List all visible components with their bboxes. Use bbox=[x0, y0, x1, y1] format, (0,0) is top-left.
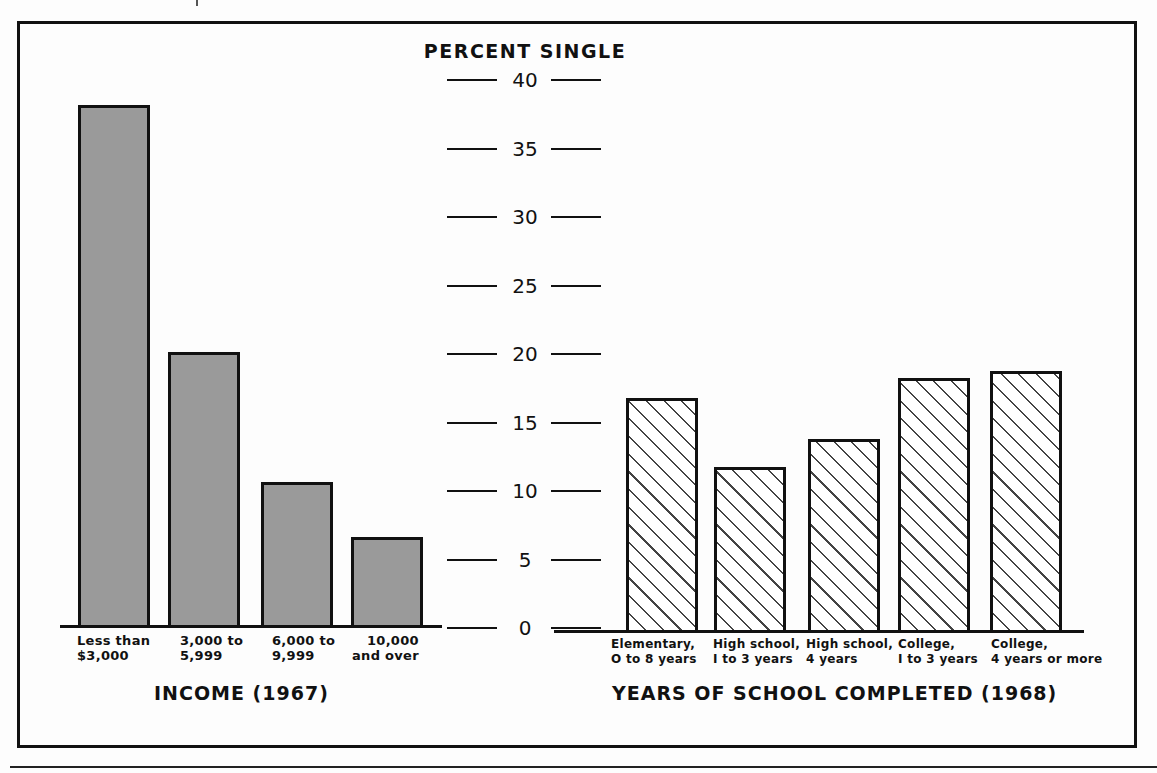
tick-label: 25 bbox=[501, 274, 549, 298]
tick-dash bbox=[447, 627, 497, 629]
tick-dash bbox=[447, 353, 497, 355]
tick-dash bbox=[551, 148, 601, 150]
school-category-label: College, 4 years or more bbox=[991, 637, 1102, 667]
y-axis-tick: 40 bbox=[447, 68, 607, 92]
school-category-label: High school, I to 3 years bbox=[713, 637, 800, 667]
y-axis-tick: 30 bbox=[447, 205, 607, 229]
y-axis-tick: 35 bbox=[447, 137, 607, 161]
tick-dash bbox=[447, 422, 497, 424]
bar bbox=[808, 439, 880, 633]
bar bbox=[898, 378, 970, 633]
tick-dash bbox=[447, 148, 497, 150]
tick-dash bbox=[551, 627, 601, 629]
tick-label: 10 bbox=[501, 479, 549, 503]
tick-label: 0 bbox=[501, 616, 549, 640]
tick-dash bbox=[551, 422, 601, 424]
tick-label: 35 bbox=[501, 137, 549, 161]
school-category-label: College, I to 3 years bbox=[898, 637, 978, 667]
tick-dash bbox=[551, 285, 601, 287]
school-category-label: High school, 4 years bbox=[806, 637, 893, 667]
income-category-label: Less than $3,000 bbox=[77, 633, 150, 663]
tick-dash bbox=[551, 490, 601, 492]
income-category-label: 6,000 to 9,999 bbox=[272, 633, 335, 663]
bar bbox=[168, 352, 240, 628]
tick-dash bbox=[551, 216, 601, 218]
bar bbox=[78, 105, 150, 628]
tick-label: 5 bbox=[501, 548, 549, 572]
y-axis-tick: 20 bbox=[447, 342, 607, 366]
tick-dash bbox=[447, 285, 497, 287]
bottom-rule bbox=[10, 766, 1157, 768]
y-axis-tick: 10 bbox=[447, 479, 607, 503]
bar bbox=[261, 482, 333, 628]
tick-label: 20 bbox=[501, 342, 549, 366]
tick-label: 15 bbox=[501, 411, 549, 435]
tick-dash bbox=[447, 216, 497, 218]
tick-dash bbox=[447, 79, 497, 81]
school-category-label: Elementary, O to 8 years bbox=[611, 637, 697, 667]
bar bbox=[351, 537, 423, 628]
y-axis-title: PERCENT SINGLE bbox=[400, 40, 650, 62]
y-axis-tick: 15 bbox=[447, 411, 607, 435]
tick-label: 30 bbox=[501, 205, 549, 229]
tick-dash bbox=[551, 353, 601, 355]
bar bbox=[990, 371, 1062, 633]
income-category-label: 3,000 to 5,999 bbox=[180, 633, 243, 663]
bar bbox=[714, 467, 786, 633]
tick-dash bbox=[551, 559, 601, 561]
income-x-axis-label: INCOME (1967) bbox=[154, 682, 329, 704]
bar bbox=[626, 398, 698, 633]
tick-label: 40 bbox=[501, 68, 549, 92]
scan-mark bbox=[196, 0, 198, 6]
tick-dash bbox=[447, 490, 497, 492]
y-axis-tick: 25 bbox=[447, 274, 607, 298]
school-x-axis-label: YEARS OF SCHOOL COMPLETED (1968) bbox=[612, 682, 1057, 704]
tick-dash bbox=[447, 559, 497, 561]
y-axis-tick: 0 bbox=[447, 616, 607, 640]
y-axis-tick: 5 bbox=[447, 548, 607, 572]
tick-dash bbox=[551, 79, 601, 81]
income-category-label: 10,000 and over bbox=[352, 633, 419, 663]
